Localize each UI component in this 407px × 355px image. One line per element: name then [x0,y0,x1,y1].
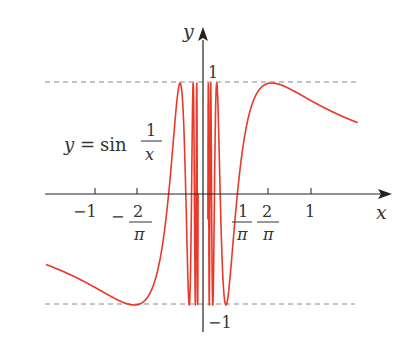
svg-text:π: π [236,225,248,244]
function-label: y = sin 1 x [63,121,162,164]
svg-text:x: x [145,145,154,164]
svg-text:y: y [63,134,75,155]
svg-text:−: − [111,207,124,226]
y-axis-label: y [182,20,194,42]
svg-text:2: 2 [133,202,143,221]
svg-text:π: π [262,225,274,244]
svg-text:1: 1 [238,202,248,221]
svg-text:1: 1 [146,121,156,140]
y-tick-label-neg-1: −1 [208,313,232,332]
x-tick-label-1: 1 [305,202,315,221]
y-axis-arrow-icon [198,27,208,41]
svg-text:sin: sin [100,134,127,155]
x-tick-label-neg-1: −1 [73,202,97,221]
sin-inverse-x-chart: y x 1 −1 −1 1 − 2 π 1 π 2 π y = sin 1 x [0,0,407,355]
x-axis-label: x [376,201,387,223]
x-tick-label-neg-2-over-pi: − 2 π [111,202,152,244]
svg-text:=: = [80,134,95,155]
x-tick-label-2-over-pi: 2 π [257,202,279,244]
y-tick-label-1: 1 [208,63,218,82]
svg-text:2: 2 [262,202,272,221]
svg-text:π: π [133,225,145,244]
